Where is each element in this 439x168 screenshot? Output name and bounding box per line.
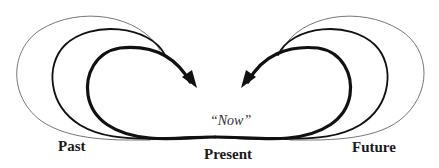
past-loop-middle [52,29,165,139]
now-label: “Now” [210,113,251,129]
past-label: Past [58,138,86,155]
past-loops [17,16,215,140]
future-loop-outer [282,16,424,140]
present-label: Present [204,146,252,163]
past-loop-inner [87,47,215,138]
future-label: Future [352,139,396,156]
